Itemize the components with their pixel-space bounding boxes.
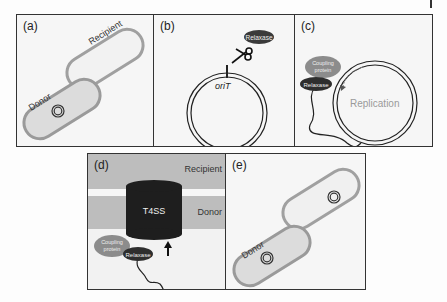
panel-c-illustration: Replication Coupling protein Relaxase bbox=[295, 15, 433, 147]
panel-label-d: (d) bbox=[94, 158, 109, 172]
panel-d: Recipient Donor T4SS Coupling protein Re… bbox=[87, 153, 226, 290]
svg-text:Coupling: Coupling bbox=[101, 239, 123, 245]
svg-text:Relaxase: Relaxase bbox=[125, 252, 151, 258]
t4ss-channel: T4SS bbox=[126, 180, 182, 240]
svg-text:protein: protein bbox=[104, 246, 121, 252]
relaxase-protein: Relaxase bbox=[244, 30, 274, 44]
panel-c: (c) Replication Coupling protein Relaxas… bbox=[294, 14, 433, 147]
panel-a: (a) Recipient Donor bbox=[16, 14, 154, 147]
page-edge-mark bbox=[430, 0, 432, 8]
coupling-protein: Coupling protein bbox=[305, 56, 341, 78]
donor-label: Donor bbox=[197, 207, 222, 217]
relaxase-protein: Relaxase bbox=[123, 247, 153, 261]
replication-label: Replication bbox=[350, 98, 399, 109]
svg-text:T4SS: T4SS bbox=[143, 206, 166, 216]
svg-text:Relaxase: Relaxase bbox=[245, 34, 272, 41]
panel-e-illustration: Donor bbox=[226, 154, 366, 290]
orit-label: oriT bbox=[215, 81, 232, 91]
recipient-label: Recipient bbox=[184, 164, 222, 174]
relaxase-protein: Relaxase bbox=[300, 77, 332, 91]
panel-b-illustration: oriT Relaxase bbox=[154, 15, 295, 147]
panel-d-illustration: Recipient Donor T4SS Coupling protein Re… bbox=[88, 154, 226, 290]
transconjugant-cell bbox=[277, 163, 365, 235]
svg-text:Coupling: Coupling bbox=[312, 60, 334, 66]
scissors-icon bbox=[232, 48, 252, 63]
svg-text:Relaxase: Relaxase bbox=[303, 82, 329, 88]
svg-text:protein: protein bbox=[315, 67, 332, 73]
panel-a-illustration: Recipient Donor bbox=[17, 15, 154, 147]
panel-b: (b) oriT Relaxase bbox=[153, 14, 295, 147]
panel-e: (e) Donor bbox=[225, 153, 366, 290]
replication-arrow bbox=[343, 67, 363, 87]
